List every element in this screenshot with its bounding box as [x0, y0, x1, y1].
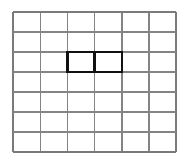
- grid-svg: [0, 0, 190, 166]
- grid-diagram: [0, 0, 190, 166]
- highlight-cells-group: [67, 52, 121, 72]
- grid-lines-group: [13, 12, 176, 152]
- figure-canvas: [0, 0, 190, 166]
